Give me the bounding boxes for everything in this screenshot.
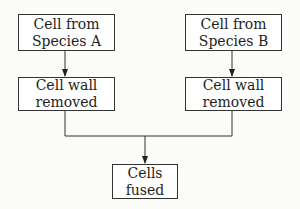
node-label-line: Species B (199, 33, 268, 50)
node-label-line: removed (203, 94, 265, 111)
node-label-line: Cell from (201, 16, 267, 33)
node-wall-removed-b: Cell wall removed (185, 77, 282, 111)
node-label-line: Cells (127, 165, 162, 182)
node-species-b: Cell from Species B (185, 14, 282, 51)
node-species-a: Cell from Species A (18, 14, 115, 51)
merge-line (65, 110, 232, 136)
node-label-line: Cell wall (36, 77, 98, 94)
node-label-line: Cell from (34, 16, 100, 33)
node-cells-fused: Cells fused (112, 164, 178, 199)
flowchart-canvas: Cell from Species A Cell from Species B … (0, 0, 300, 209)
node-wall-removed-a: Cell wall removed (18, 77, 115, 111)
node-label-line: Cell wall (203, 77, 265, 94)
node-label-line: fused (126, 182, 165, 199)
node-label-line: removed (36, 94, 98, 111)
node-label-line: Species A (32, 33, 101, 50)
